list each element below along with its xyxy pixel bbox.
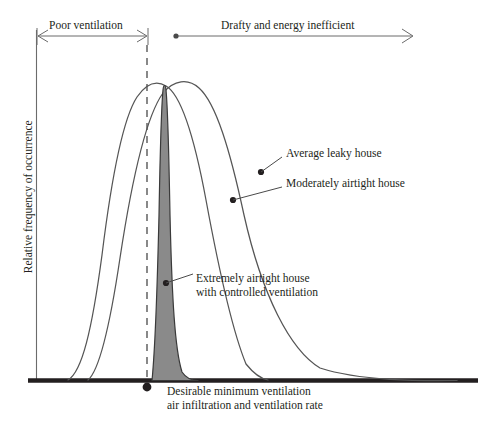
curve-extremely-airtight-house (152, 86, 198, 381)
x-axis-label: Desirable minimum ventilation air infilt… (167, 385, 323, 412)
extremely-airtight-house-label: Extremely airtight house with controlled… (196, 272, 318, 299)
chart-canvas (0, 0, 492, 426)
ventilation-distribution-figure: Poor ventilation Drafty and energy ineff… (0, 0, 492, 426)
x-axis-label-line2: air infiltration and ventilation rate (167, 399, 323, 413)
x-axis-label-line1: Desirable minimum ventilation (167, 385, 323, 399)
callout-average-leaky-line (261, 157, 282, 172)
callout-average-leaky-leader (258, 157, 282, 175)
drafty-arrow-start-dot (173, 33, 178, 38)
y-axis-label: Relative frequency of occurrence (22, 97, 36, 297)
curve-average-leaky-house (88, 82, 457, 381)
moderately-airtight-house-label: Moderately airtight house (286, 177, 405, 191)
drafty-and-energy-inefficient-label: Drafty and energy inefficient (221, 19, 354, 33)
extremely-airtight-house-label-line2: with controlled ventilation (196, 286, 318, 300)
poor-ventilation-label: Poor ventilation (49, 19, 123, 33)
desirable-minimum-dot (143, 383, 152, 392)
average-leaky-house-label: Average leaky house (286, 147, 382, 161)
extremely-airtight-house-label-line1: Extremely airtight house (196, 272, 318, 286)
callout-moderately-airtight-line (233, 187, 282, 200)
